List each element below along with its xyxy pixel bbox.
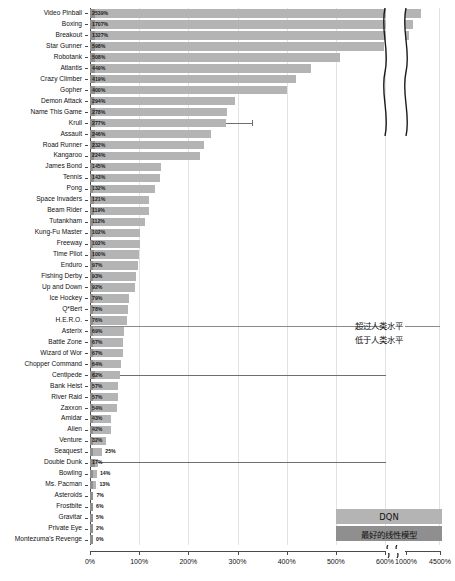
category-tick (85, 364, 88, 365)
category-label: Robotank (54, 52, 82, 63)
dqn-bar (90, 9, 421, 17)
bar-value-label: 14% (100, 468, 110, 479)
x-tick (287, 551, 288, 555)
category-label: Battle Zone (48, 337, 82, 348)
category-label: Space Invaders (36, 194, 82, 205)
category-label: Road Runner (43, 140, 82, 151)
category-label: Frostbite (56, 501, 82, 512)
dqn-bar (90, 108, 227, 116)
category-label: Private Eye (48, 523, 82, 534)
category-tick (85, 79, 88, 80)
category-tick (85, 123, 88, 124)
bar-value-label: 1327% (92, 30, 108, 41)
linear-model-bar (90, 514, 93, 522)
bar-value-label: 102% (92, 227, 105, 238)
x-tick-label: 4500% (429, 558, 451, 565)
category-label: Freeway (57, 238, 82, 249)
category-label: Bowling (59, 468, 82, 479)
linear-model-bar (90, 470, 93, 478)
category-tick (85, 46, 88, 47)
category-label: Ms. Pacman (45, 479, 82, 490)
category-tick (85, 320, 88, 321)
annotation-above-human-level: 超过人类水平 (355, 319, 403, 331)
bar-value-label: 64% (92, 359, 102, 370)
category-tick (85, 222, 88, 223)
category-tick (85, 266, 88, 267)
category-tick (85, 397, 88, 398)
x-axis-break-gap (386, 549, 405, 553)
bar-value-label: 7% (96, 490, 104, 501)
category-label: Centipede (52, 370, 82, 381)
category-label: Up and Down (42, 282, 82, 293)
bar-value-label: 6% (96, 501, 104, 512)
dqn-bar (90, 97, 235, 105)
category-label: Breakout (56, 30, 82, 41)
bar-value-label: 119% (92, 205, 105, 216)
category-tick (85, 441, 88, 442)
category-label: Asteroids (55, 490, 83, 501)
x-tick (188, 551, 189, 555)
category-tick (85, 24, 88, 25)
category-label: Name This Game (30, 107, 82, 118)
bar-value-label: 143% (92, 172, 105, 183)
bar-value-label: 246% (92, 129, 105, 140)
category-tick (85, 145, 88, 146)
category-tick (85, 353, 88, 354)
bar-value-label: 13% (99, 479, 109, 490)
category-label: Gravitar (59, 512, 82, 523)
category-label: Bank Heist (50, 381, 82, 392)
category-tick (85, 496, 88, 497)
x-tick-label: 1000% (395, 558, 417, 565)
category-label: Montezuma's Revenge (15, 534, 82, 545)
plot-area: 2539%1707%1327%598%508%449%419%400%294%2… (90, 8, 440, 545)
dqn-bar (90, 53, 340, 61)
bar-value-label: 79% (92, 293, 102, 304)
category-tick (85, 68, 88, 69)
dqn-bar (90, 75, 296, 83)
dqn-bar (90, 141, 204, 149)
category-label: Q*Bert (62, 304, 82, 315)
category-tick (85, 386, 88, 387)
category-label: H.E.R.O. (56, 315, 82, 326)
category-label: Kung-Fu Master (35, 227, 82, 238)
category-label: Venture (59, 435, 82, 446)
category-tick (85, 277, 88, 278)
chart-legend: DQN 最好的线性模型 (336, 509, 442, 543)
category-label: Boxing (62, 19, 82, 30)
linear-model-bar (90, 492, 93, 500)
category-label: Amidar (61, 413, 82, 424)
category-tick (85, 408, 88, 409)
category-tick (85, 452, 88, 453)
annotation-below-human-level: 低于人类水平 (355, 333, 403, 345)
category-tick (85, 101, 88, 102)
bar-value-label: 78% (92, 304, 102, 315)
bar-value-label: 132% (92, 183, 105, 194)
category-tick (85, 419, 88, 420)
category-tick (85, 331, 88, 332)
bar-value-label: 419% (92, 74, 105, 85)
bar-value-label: 62% (92, 370, 102, 381)
bar-value-label: 67% (92, 337, 102, 348)
x-tick-label: 400% (278, 558, 296, 565)
category-tick (85, 255, 88, 256)
category-tick (85, 518, 88, 519)
category-tick (85, 57, 88, 58)
category-label: Beam Rider (47, 205, 82, 216)
bar-value-label: 1707% (92, 19, 108, 30)
bar-value-label: 67% (92, 348, 102, 359)
category-tick (85, 156, 88, 157)
dqn-bar (90, 152, 200, 160)
category-tick (85, 200, 88, 201)
category-tick (85, 474, 88, 475)
bar-value-label: 17% (92, 457, 102, 468)
category-label: Alien (67, 424, 82, 435)
category-label: Atlantis (60, 63, 82, 74)
category-tick (85, 529, 88, 530)
category-tick (85, 244, 88, 245)
bar-value-label: 224% (92, 150, 105, 161)
bar-value-label: 93% (92, 271, 102, 282)
category-label: Gopher (60, 85, 82, 96)
category-label: Star Gunner (46, 41, 82, 52)
category-tick (85, 485, 88, 486)
bar-value-label: 57% (92, 381, 102, 392)
